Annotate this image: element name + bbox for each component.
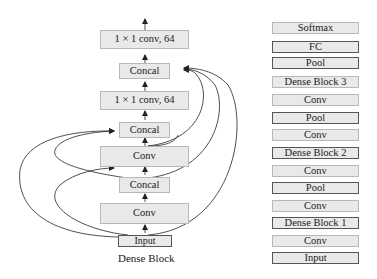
layer-pool-3: Pool [272, 57, 359, 69]
layer-label: Pool [306, 183, 325, 194]
node-label: Concal [130, 125, 160, 136]
layer-conv-2: Conv [272, 200, 359, 212]
layer-label: Conv [304, 95, 327, 106]
layer-label: Conv [304, 201, 327, 212]
layer-label: Input [304, 253, 326, 264]
dense-node-conv-1: Conv [100, 203, 189, 224]
dense-node-concat-2: Concal [119, 177, 170, 193]
layer-label: FC [309, 42, 322, 53]
layer-label: Dense Block 3 [285, 77, 347, 88]
layer-fc: FC [272, 41, 359, 53]
layer-label: Conv [304, 166, 327, 177]
dense-node-conv1x1-mid: 1 × 1 conv, 64 [100, 91, 189, 110]
layer-conv-4: Conv [272, 129, 359, 141]
layer-dense-block-2: Dense Block 2 [272, 147, 359, 159]
layer-softmax: Softmax [272, 22, 359, 34]
dense-block-caption: Dense Block [118, 252, 175, 264]
layer-dense-block-1: Dense Block 1 [272, 217, 359, 229]
layer-pool-2: Pool [272, 112, 359, 124]
dense-node-concat-3: Concal [119, 122, 170, 138]
node-label: Concal [130, 66, 160, 77]
layer-label: Dense Block 2 [285, 148, 347, 159]
dense-node-conv-2: Conv [100, 146, 189, 167]
node-label: 1 × 1 conv, 64 [115, 34, 175, 45]
layer-label: Dense Block 1 [285, 218, 347, 229]
layer-label: Softmax [298, 23, 334, 34]
node-label: 1 × 1 conv, 64 [115, 95, 175, 106]
layer-input: Input [272, 252, 359, 264]
dense-node-conv1x1-top: 1 × 1 conv, 64 [100, 30, 189, 49]
layer-label: Conv [304, 236, 327, 247]
layer-conv-3: Conv [272, 165, 359, 177]
node-label: Conv [133, 151, 156, 162]
node-label: Input [134, 236, 155, 246]
layer-label: Pool [306, 113, 325, 124]
dense-node-concat-4: Concal [119, 63, 170, 79]
layer-conv-1: Conv [272, 235, 359, 247]
node-label: Conv [133, 208, 156, 219]
layer-label: Pool [306, 58, 325, 69]
layer-conv-5: Conv [272, 94, 359, 106]
layer-label: Conv [304, 130, 327, 141]
dense-node-input: Input [118, 235, 172, 247]
layer-dense-block-3: Dense Block 3 [272, 76, 359, 88]
layer-pool-1: Pool [272, 182, 359, 194]
node-label: Concal [130, 180, 160, 191]
